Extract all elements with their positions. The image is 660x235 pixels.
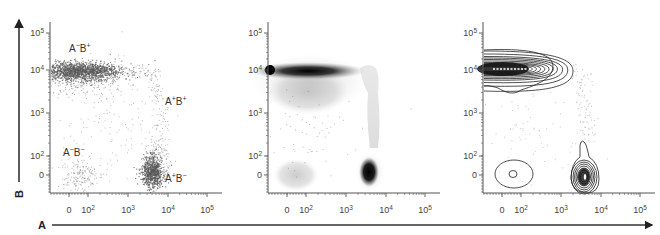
y-tick-label: 0 — [472, 170, 477, 180]
y-tick-label: 102 — [248, 150, 262, 162]
y-tick-label: 105 — [248, 27, 262, 39]
x-tick-label: 0 — [499, 205, 504, 215]
x-tick-label: 105 — [200, 204, 214, 216]
x-axis-label: A — [38, 219, 46, 231]
y-tick-label: 105 — [30, 27, 44, 39]
y-tick-label: 102 — [463, 150, 477, 162]
quadrant-label-a-neg-b-neg: A−B− — [63, 146, 85, 158]
y-tick-label: 105 — [463, 27, 477, 39]
y-axis-label: B — [13, 190, 25, 198]
x-tick-label: 103 — [339, 204, 353, 216]
x-tick-label: 0 — [66, 205, 71, 215]
dot-plot-panel: 10510410310200102103104105A−B+A+B+A−B−A+… — [30, 22, 222, 215]
x-tick-label: 102 — [514, 204, 528, 216]
quadrant-label-a-pos-b-neg: A+B− — [165, 172, 187, 184]
x-tick-label: 0 — [284, 205, 289, 215]
x-tick-label: 105 — [418, 204, 432, 216]
x-tick-label: 104 — [594, 204, 608, 216]
density-plot-panel: 10510410310200102103104105 — [248, 22, 440, 215]
y-tick-label: 103 — [463, 107, 477, 119]
x-tick-label: 105 — [633, 204, 647, 216]
y-tick-label: 103 — [30, 107, 44, 119]
y-tick-label: 102 — [30, 150, 44, 162]
x-tick-label: 104 — [379, 204, 393, 216]
y-tick-label: 0 — [257, 170, 262, 180]
x-tick-label: 103 — [121, 204, 135, 216]
x-tick-label: 102 — [299, 204, 313, 216]
quadrant-label-a-neg-b-pos: A−B+ — [69, 42, 91, 54]
x-tick-label: 103 — [554, 204, 568, 216]
y-tick-label: 104 — [463, 64, 477, 76]
y-tick-label: 104 — [30, 64, 44, 76]
quadrant-label-a-pos-b-pos: A+B+ — [165, 95, 187, 107]
flow-cytometry-figure: B A 10510410310200102103104105A−B+A+B+A−… — [0, 0, 660, 235]
y-tick-label: 0 — [39, 170, 44, 180]
dot-plot-events — [51, 31, 178, 193]
y-tick-label: 103 — [248, 107, 262, 119]
x-tick-label: 102 — [81, 204, 95, 216]
x-tick-label: 104 — [161, 204, 175, 216]
density-plot-map — [250, 54, 384, 192]
contour-plot-panel: 10510410310200102103104105 — [463, 22, 655, 215]
